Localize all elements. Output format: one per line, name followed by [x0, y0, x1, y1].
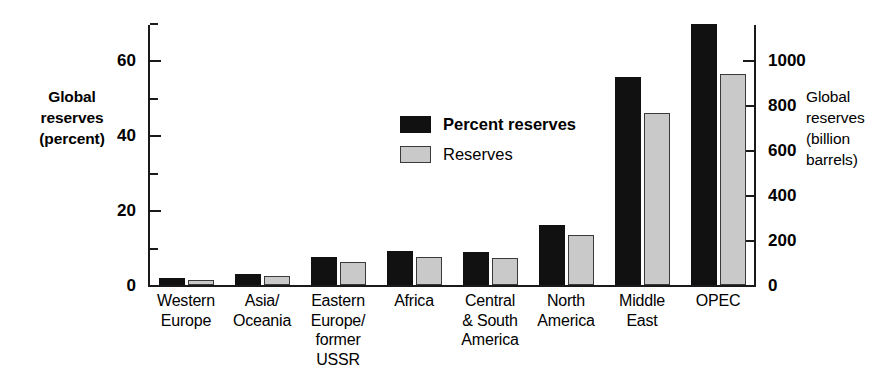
x-axis-label: MiddleEast [598, 291, 686, 330]
x-axis-label: OPEC [674, 291, 762, 311]
x-axis-label-line: America [522, 311, 610, 331]
chart-figure: Global reserves (percent) Global reserve… [0, 0, 892, 384]
bar-percent-reserves [539, 225, 565, 285]
x-axis-label-line: Western [142, 291, 230, 311]
x-axis-label-line: America [446, 330, 534, 350]
right-axis-tick-label-600: 600 [768, 142, 828, 159]
bar-percent-reserves [463, 252, 489, 285]
legend-swatch-reserves [400, 146, 431, 163]
right-axis-tick-0 [743, 285, 754, 287]
x-axis-label-line: Africa [370, 291, 458, 311]
x-axis-label-line: Asia/ [218, 291, 306, 311]
legend-entry-percent-reserves: Percent reserves [400, 111, 576, 137]
x-axis-label-line: OPEC [674, 291, 762, 311]
legend-entry-reserves: Reserves [400, 141, 576, 167]
left-axis-title-line-1: Global [14, 86, 130, 107]
x-axis-label-line: & South [446, 311, 534, 331]
x-axis-label-line: Central [446, 291, 534, 311]
bar-reserves [492, 258, 518, 285]
bar-group [604, 25, 680, 285]
bar-reserves [188, 280, 214, 285]
bar-percent-reserves [387, 251, 413, 285]
right-axis-tick-label-1000: 1000 [768, 52, 828, 69]
right-axis-tick-label-0: 0 [768, 277, 828, 294]
bar-percent-reserves [615, 77, 641, 285]
x-axis-label: Asia/Oceania [218, 291, 306, 330]
left-axis-tick-label-20: 20 [90, 202, 136, 219]
x-axis-label-line: Eastern [294, 291, 382, 311]
chart-legend: Percent reserves Reserves [400, 111, 576, 171]
bar-percent-reserves [235, 274, 261, 285]
left-axis-tick-0 [150, 285, 161, 287]
x-axis-label: WesternEurope [142, 291, 230, 330]
x-axis-label-line: Europe [142, 311, 230, 331]
bar-reserves [416, 257, 442, 285]
left-axis-tick-label-40: 40 [90, 127, 136, 144]
x-axis-label-line: USSR [294, 350, 382, 370]
x-axis-label-line: East [598, 311, 686, 331]
plot-area: 0204060 02004006008001000 Percent reserv… [148, 25, 756, 287]
right-axis-tick-label-400: 400 [768, 187, 828, 204]
left-axis-tick-label-0: 0 [90, 277, 136, 294]
bar-group [148, 25, 224, 285]
legend-label-reserves: Reserves [443, 145, 513, 163]
left-axis-title-line-2: reserves [14, 107, 130, 128]
x-axis-label: NorthAmerica [522, 291, 610, 330]
x-axis-label-line: Oceania [218, 311, 306, 331]
x-axis-label-line: Europe/ [294, 311, 382, 331]
bar-group [300, 25, 376, 285]
axis-baseline [148, 285, 756, 287]
right-axis-tick-label-800: 800 [768, 97, 828, 114]
legend-label-percent-reserves: Percent reserves [443, 115, 576, 133]
bar-reserves [340, 262, 366, 285]
bar-group [680, 25, 756, 285]
bar-group [224, 25, 300, 285]
bar-percent-reserves [311, 257, 337, 285]
bar-reserves [264, 276, 290, 285]
x-axis-label-line: North [522, 291, 610, 311]
bar-reserves [568, 235, 594, 285]
bar-percent-reserves [691, 24, 717, 285]
legend-swatch-percent-reserves [400, 116, 431, 133]
bar-reserves [720, 74, 746, 286]
x-axis-label-line: Middle [598, 291, 686, 311]
x-axis-label-line: former [294, 330, 382, 350]
x-axis-label: EasternEurope/formerUSSR [294, 291, 382, 369]
x-axis-label: Central& SouthAmerica [446, 291, 534, 350]
x-axis-category-labels: WesternEuropeAsia/OceaniaEasternEurope/f… [148, 291, 756, 384]
bar-reserves [644, 113, 670, 285]
left-axis-tick-label-60: 60 [90, 52, 136, 69]
right-axis-tick-label-200: 200 [768, 232, 828, 249]
bar-percent-reserves [159, 278, 185, 286]
x-axis-label: Africa [370, 291, 458, 311]
